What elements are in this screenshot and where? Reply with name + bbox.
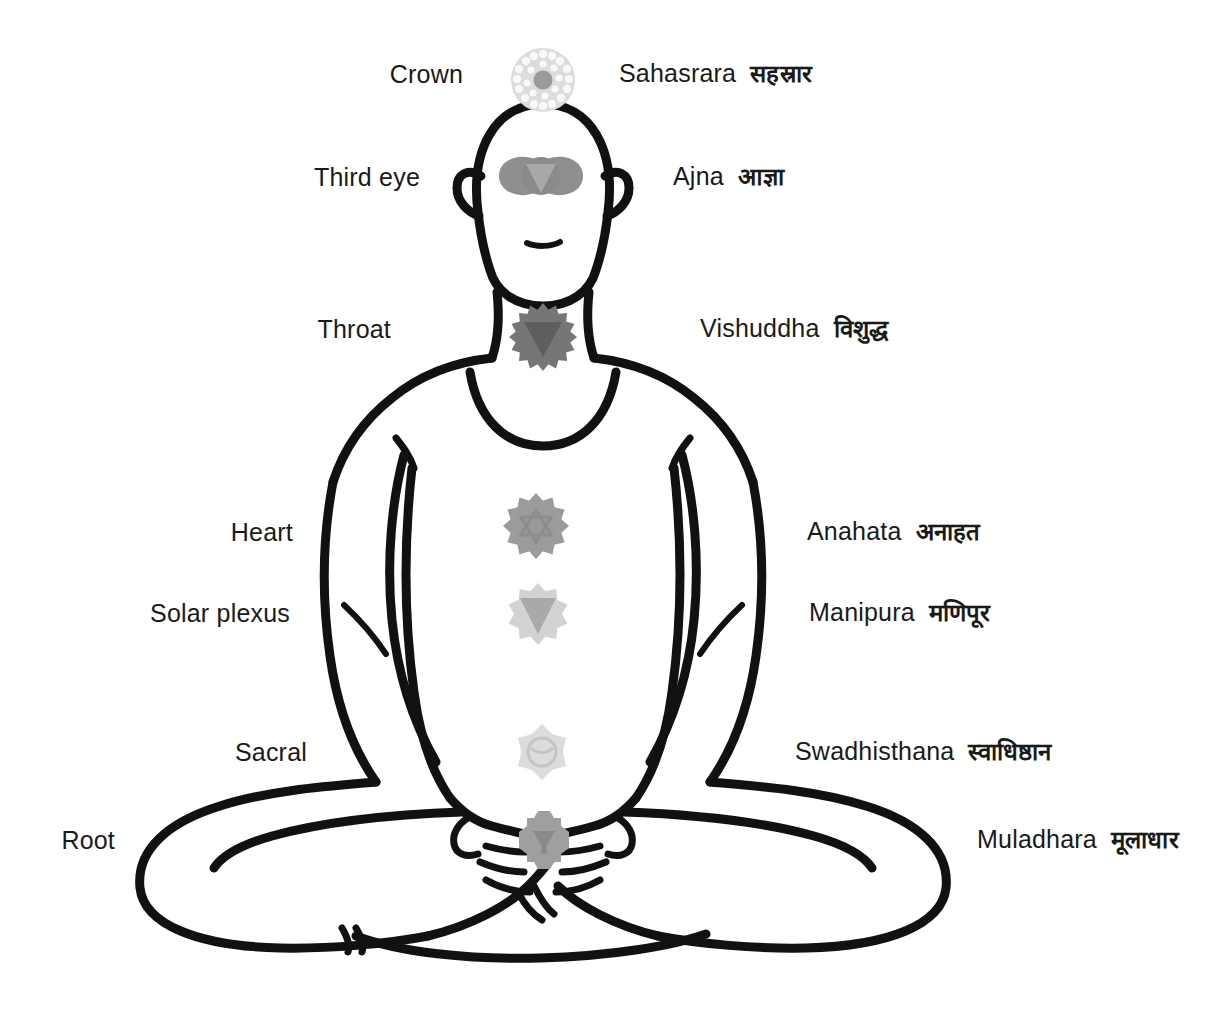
label-sacral-english: Sacral — [235, 740, 307, 765]
chakra-icon-muladhara — [519, 811, 569, 869]
label-solar-plexus-english: Solar plexus — [150, 601, 290, 626]
right-finger-2 — [562, 862, 606, 872]
chakra-icon-swadhisthana — [513, 724, 571, 780]
label-swadhisthana-sanskrit: Swadhisthanaस्वाधिष्ठान — [795, 739, 1051, 764]
left-shin-cross — [428, 860, 550, 936]
mouth-line — [527, 242, 560, 246]
crown-english-text: Crown — [390, 62, 463, 87]
sacral-english-text: Sacral — [235, 740, 307, 765]
chakra-icon-vishuddha — [509, 303, 577, 371]
third-eye-english-text: Third eye — [314, 165, 420, 190]
solar-plexus-english-text: Solar plexus — [150, 601, 290, 626]
ajna-devanagari-text: आज्ञा — [738, 165, 784, 189]
seated-figure-illustration — [0, 0, 1231, 1026]
chakra-diagram-canvas: Crown Sahasraraसहस्रार Third eye Ajnaआज्… — [0, 0, 1231, 1026]
manipura-roman-text: Manipura — [809, 600, 915, 625]
right-elbow-crease — [700, 605, 742, 654]
vishuddha-devanagari-text: विशुद्ध — [834, 317, 889, 341]
muladhara-devanagari-text: मूलाधार — [1111, 828, 1179, 852]
root-english-text: Root — [61, 828, 115, 853]
label-sahasrara-sanskrit: Sahasraraसहस्रार — [619, 61, 812, 86]
label-heart-english: Heart — [231, 520, 293, 545]
heart-english-text: Heart — [231, 520, 293, 545]
chakra-icon-ajna — [499, 157, 583, 195]
head-outline — [477, 104, 610, 306]
anahata-devanagari-text: अनाहत — [916, 520, 981, 544]
left-finger-2 — [480, 862, 524, 872]
left-torso-side — [406, 468, 450, 798]
anahata-roman-text: Anahata — [807, 519, 902, 544]
label-manipura-sanskrit: Manipuraमणिपूर — [809, 600, 991, 625]
label-ajna-sanskrit: Ajnaआज्ञा — [673, 164, 784, 189]
label-crown-english: Crown — [390, 62, 463, 87]
vishuddha-roman-text: Vishuddha — [700, 316, 820, 341]
finger-interlock-center — [534, 886, 554, 914]
right-leg-outer — [658, 782, 946, 948]
throat-english-text: Throat — [318, 317, 391, 342]
chakra-icon-sahasrara — [511, 48, 575, 112]
manipura-devanagari-text: मणिपूर — [929, 601, 991, 625]
sahasrara-roman-text: Sahasrara — [619, 61, 736, 86]
label-muladhara-sanskrit: Muladharaमूलाधार — [977, 827, 1179, 852]
label-third-eye-english: Third eye — [314, 165, 420, 190]
right-torso-side — [636, 468, 680, 798]
chakra-icon-anahata — [503, 493, 569, 559]
muladhara-roman-text: Muladhara — [977, 827, 1097, 852]
neck-left-outline — [492, 292, 498, 358]
right-thigh-inner — [624, 812, 872, 868]
swadhisthana-devanagari-text: स्वाधिष्ठान — [968, 740, 1051, 764]
label-vishuddha-sanskrit: Vishuddhaविशुद्ध — [700, 316, 888, 341]
chest-neckline — [470, 372, 616, 446]
ajna-roman-text: Ajna — [673, 164, 724, 189]
left-thigh-inner — [214, 812, 462, 868]
chakra-icon-manipura — [506, 583, 570, 645]
label-throat-english: Throat — [318, 317, 391, 342]
label-root-english: Root — [61, 828, 115, 853]
label-anahata-sanskrit: Anahataअनाहत — [807, 519, 980, 544]
swadhisthana-roman-text: Swadhisthana — [795, 739, 954, 764]
sahasrara-devanagari-text: सहस्रार — [750, 62, 812, 86]
left-elbow-crease — [344, 605, 386, 654]
neck-right-outline — [588, 292, 594, 358]
left-leg-outer — [140, 782, 428, 948]
